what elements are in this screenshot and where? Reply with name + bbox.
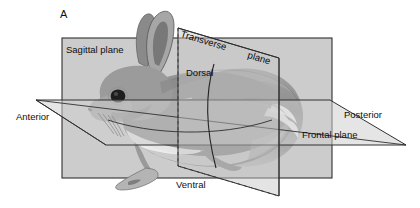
label-anterior: Anterior [16, 112, 49, 122]
label-sagittal-plane: Sagittal plane [66, 45, 124, 55]
anatomical-planes-figure: A Sagittal plane Transverse plane Fronta… [0, 0, 420, 208]
label-frontal-plane: Frontal plane [302, 130, 357, 140]
label-dorsal: Dorsal [186, 68, 213, 78]
panel-letter: A [60, 8, 67, 20]
label-posterior: Posterior [344, 110, 382, 120]
label-ventral: Ventral [176, 180, 206, 190]
planes-illustration [0, 0, 420, 208]
